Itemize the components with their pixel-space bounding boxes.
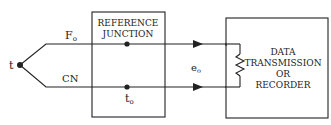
bottom-wire-label: CN xyxy=(62,73,79,84)
wires xyxy=(20,44,240,87)
data-line3: OR xyxy=(276,69,290,79)
reference-line2: JUNCTION xyxy=(102,29,154,39)
reference-node-bottom xyxy=(124,84,129,89)
data-line1: DATA xyxy=(270,47,296,57)
reference-junction-box: REFERENCE JUNCTION to xyxy=(92,12,165,117)
data-line4: RECORDER xyxy=(256,80,311,90)
arrow-top-icon xyxy=(193,40,203,48)
top-wire-label: Fo xyxy=(65,29,77,43)
arrow-bottom-icon xyxy=(193,83,203,91)
junction-label: t xyxy=(9,59,14,72)
reference-temp-label: to xyxy=(125,92,134,106)
data-line2: TRANSMISSION xyxy=(244,58,321,68)
resistor-icon xyxy=(236,54,244,76)
output-voltage-label: eo xyxy=(191,62,201,75)
reference-line1: REFERENCE xyxy=(98,18,159,28)
thermocouple-diagram: t Fo CN REFERENCE JUNCTION to eo DATA TR… xyxy=(0,0,331,125)
data-recorder-box: DATA TRANSMISSION OR RECORDER xyxy=(226,18,328,118)
reference-node-top xyxy=(124,41,129,46)
